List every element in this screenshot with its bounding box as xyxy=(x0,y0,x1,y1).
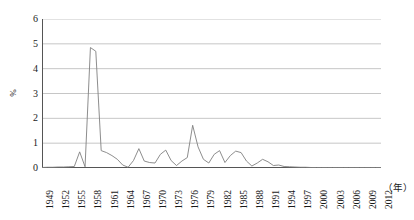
x-tick-label: 2006 xyxy=(353,190,363,209)
x-tick-label: 1979 xyxy=(207,190,217,209)
x-tick-label: 2003 xyxy=(337,190,347,209)
x-tick-label: 1973 xyxy=(175,190,185,209)
x-tick-label: 1976 xyxy=(191,190,201,209)
x-tick-label: 1955 xyxy=(78,190,88,209)
x-tick-label: 1997 xyxy=(304,190,314,209)
x-axis-unit-label: （年） xyxy=(383,183,413,193)
x-axis-tick-labels: 1949195219551958196119641967197019731976… xyxy=(0,0,414,220)
x-tick-label: 1961 xyxy=(111,190,121,209)
x-tick-label: 1994 xyxy=(288,190,298,209)
x-tick-label: 1949 xyxy=(46,190,56,209)
x-tick-label: 1952 xyxy=(62,190,72,209)
x-tick-label: 1991 xyxy=(272,190,282,209)
x-tick-label: 1967 xyxy=(143,190,153,209)
chart-container: % 0123456 194919521955195819611964196719… xyxy=(0,0,414,220)
x-tick-label: 1985 xyxy=(240,190,250,209)
x-tick-label: 2009 xyxy=(369,190,379,209)
x-tick-label: 1964 xyxy=(127,190,137,209)
x-tick-label: 1988 xyxy=(256,190,266,209)
x-tick-label: 1958 xyxy=(94,190,104,209)
x-tick-label: 1970 xyxy=(159,190,169,209)
x-tick-label: 2000 xyxy=(320,190,330,209)
x-tick-label: 1982 xyxy=(224,190,234,209)
